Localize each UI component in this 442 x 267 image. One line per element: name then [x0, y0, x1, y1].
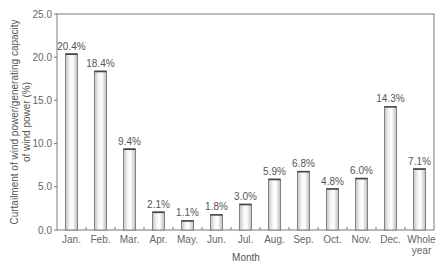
x-tick-label: Mar.: [120, 234, 139, 245]
bar: [211, 214, 223, 230]
x-tick-label: Dec.: [380, 234, 401, 245]
bar: [124, 149, 136, 230]
y-axis-title-line: Curtailment of wind power/generating cap…: [9, 19, 20, 224]
y-axis-title-line: of wind power (%): [21, 82, 32, 162]
bar-value-label: 2.1%: [147, 199, 170, 210]
x-tick-label: Jun.: [207, 234, 226, 245]
x-tick-label: Apr.: [150, 234, 168, 245]
bar-value-label: 6.8%: [292, 158, 315, 169]
x-tick-label: Sep.: [293, 234, 314, 245]
bar: [182, 220, 194, 230]
y-tick-label: 10.0: [33, 138, 53, 149]
bar: [95, 71, 107, 230]
y-axis: 0.05.010.015.020.025.0: [33, 9, 57, 236]
bar-value-label: 6.0%: [350, 165, 373, 176]
bar-value-label: 1.1%: [176, 207, 199, 218]
bar: [327, 189, 339, 230]
y-tick-label: 15.0: [33, 95, 53, 106]
y-tick-label: 0.0: [38, 225, 52, 236]
x-tick-label: Oct.: [323, 234, 341, 245]
bar: [414, 169, 426, 230]
bar-value-label: 20.4%: [57, 41, 85, 52]
y-tick-label: 25.0: [33, 9, 53, 20]
bar: [356, 178, 368, 230]
x-axis-title: Month: [232, 252, 260, 263]
x-tick-label: Nov.: [352, 234, 372, 245]
bar: [66, 54, 78, 230]
bar: [298, 171, 310, 230]
bar-value-label: 9.4%: [118, 136, 141, 147]
bar-value-label: 3.0%: [234, 191, 257, 202]
bar-value-label: 1.8%: [205, 201, 228, 212]
bar-series: 20.4%18.4%9.4%2.1%1.1%1.8%3.0%5.9%6.8%4.…: [57, 41, 431, 230]
x-tick-label: Jan.: [62, 234, 81, 245]
x-tick-label: Jul.: [238, 234, 254, 245]
y-axis-title: Curtailment of wind power/generating cap…: [9, 19, 32, 224]
bar: [385, 106, 397, 230]
x-tick-label: Whole: [407, 234, 436, 245]
bar-value-label: 5.9%: [263, 166, 286, 177]
x-tick-label: Feb.: [90, 234, 110, 245]
y-tick-label: 5.0: [38, 181, 52, 192]
bar: [153, 212, 165, 230]
bar-value-label: 14.3%: [376, 93, 404, 104]
bar: [240, 204, 252, 230]
y-tick-label: 20.0: [33, 52, 53, 63]
bar-value-label: 4.8%: [321, 176, 344, 187]
bar-chart: 0.05.010.015.020.025.0 Jan.Feb.Mar.Apr.M…: [0, 0, 442, 267]
bar: [269, 179, 281, 230]
bar-value-label: 18.4%: [86, 58, 114, 69]
x-tick-label: May.: [177, 234, 198, 245]
x-tick-label: Aug.: [264, 234, 285, 245]
x-tick-label: year: [412, 245, 432, 256]
bar-value-label: 7.1%: [408, 156, 431, 167]
